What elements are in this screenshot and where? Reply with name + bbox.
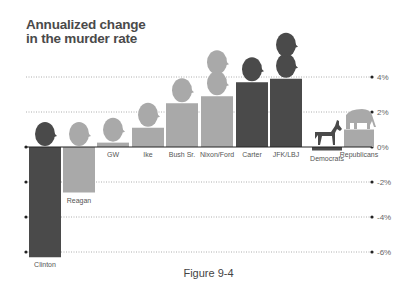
tick-dot [370, 250, 373, 253]
category-label: Reagan [67, 197, 92, 205]
category-label: Republicans [340, 151, 379, 159]
president-head-icon [69, 122, 89, 146]
tick-dot [24, 250, 27, 253]
bar-bush-sr- [166, 103, 198, 147]
tick-dot [370, 180, 373, 183]
y-tick-label: -6% [377, 248, 391, 257]
president-head-icon [242, 57, 262, 81]
tick-dot [24, 180, 27, 183]
president-head-icon [172, 78, 192, 102]
bar-clinton [29, 147, 61, 257]
president-head-icon [207, 71, 227, 95]
tick-dot [24, 145, 27, 148]
donkey-icon [315, 120, 342, 145]
category-label: Ike [143, 151, 152, 158]
bar-nixon-ford [201, 96, 233, 147]
category-label: JFK/LBJ [273, 151, 299, 158]
bar-chart: 4%2%0%-2%-4%-6%ClintonReaganGWIkeBush Sr… [0, 0, 417, 286]
president-head-icon [276, 54, 296, 78]
bar-gw [97, 143, 129, 147]
bar-ike [132, 128, 164, 147]
figure-caption: Figure 9-4 [0, 267, 417, 279]
president-head-icon [103, 118, 123, 142]
tick-dot [370, 75, 373, 78]
bar-carter [236, 82, 268, 147]
y-tick-label: 0% [377, 143, 389, 152]
president-head-icon [207, 50, 227, 74]
bar-democrats [312, 147, 342, 151]
category-label: GW [107, 151, 119, 158]
bar-jfk-lbj [270, 79, 302, 147]
president-head-icon [138, 103, 158, 127]
category-label: Bush Sr. [169, 151, 196, 158]
bar-reagan [63, 147, 95, 193]
president-head-icon [276, 33, 296, 57]
y-tick-label: 2% [377, 108, 389, 117]
category-label: Nixon/Ford [200, 151, 234, 158]
y-tick-label: 4% [377, 73, 389, 82]
y-tick-label: -2% [377, 178, 391, 187]
tick-dot [24, 215, 27, 218]
category-label: Carter [242, 151, 262, 158]
president-head-icon [35, 122, 55, 146]
y-tick-label: -4% [377, 213, 391, 222]
bar-republicans [344, 130, 374, 148]
tick-dot [370, 215, 373, 218]
